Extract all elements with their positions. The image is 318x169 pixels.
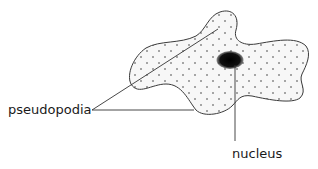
amoeba-diagram: pseudopodia nucleus	[0, 0, 318, 169]
nucleus	[217, 51, 244, 69]
nucleus-label: nucleus	[232, 146, 282, 161]
pseudopodia-label: pseudopodia	[8, 102, 92, 117]
